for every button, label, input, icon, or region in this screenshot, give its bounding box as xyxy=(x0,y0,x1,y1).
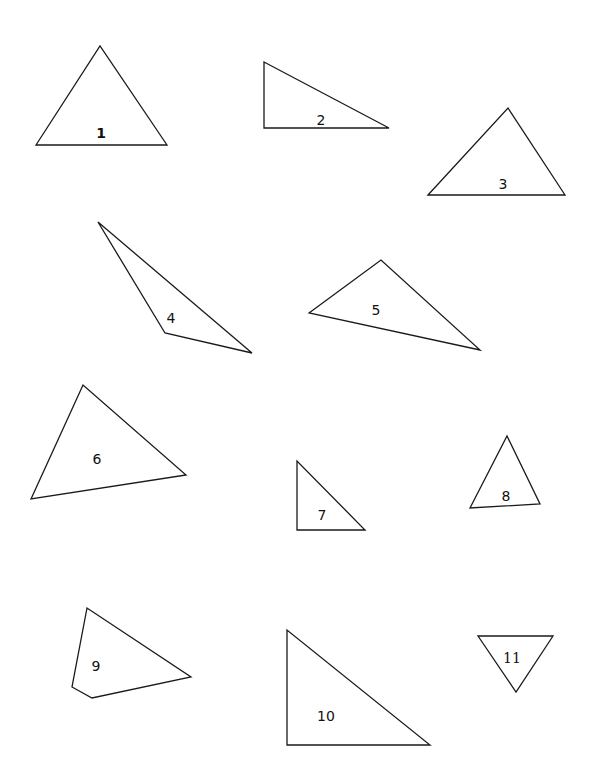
triangle-3-label: 3 xyxy=(499,176,508,192)
triangle-11-label: 11 xyxy=(503,650,521,666)
triangle-7-outline xyxy=(297,461,365,530)
triangle-10-outline xyxy=(287,630,430,745)
triangle-5-label: 5 xyxy=(372,302,381,318)
shape-1: 1 xyxy=(36,46,167,145)
shape-7: 7 xyxy=(297,461,365,530)
triangle-10-label: 10 xyxy=(317,708,335,724)
shape-3: 3 xyxy=(428,108,565,195)
shape-5: 5 xyxy=(309,260,480,350)
triangle-8-label: 8 xyxy=(502,488,511,504)
shape-4: 4 xyxy=(98,222,252,353)
shape-6: 6 xyxy=(31,385,186,499)
triangle-4-label: 4 xyxy=(167,310,176,326)
triangle-2-outline xyxy=(264,62,389,128)
shapes-diagram: 1 2 3 4 5 6 7 8 9 10 11 xyxy=(0,0,598,784)
quadrilateral-9-outline xyxy=(72,608,191,698)
triangle-6-outline xyxy=(31,385,186,499)
triangle-4-outline xyxy=(98,222,252,353)
triangle-2-label: 2 xyxy=(317,112,326,128)
shape-2: 2 xyxy=(264,62,389,128)
shape-10: 10 xyxy=(287,630,430,745)
triangle-1-label: 1 xyxy=(96,125,106,141)
shape-11: 11 xyxy=(478,636,553,692)
triangle-5-outline xyxy=(309,260,480,350)
shape-9: 9 xyxy=(72,608,191,698)
triangle-6-label: 6 xyxy=(93,451,102,467)
shape-8: 8 xyxy=(470,436,540,508)
quadrilateral-9-label: 9 xyxy=(92,658,101,674)
triangle-7-label: 7 xyxy=(318,507,327,523)
triangle-3-outline xyxy=(428,108,565,195)
